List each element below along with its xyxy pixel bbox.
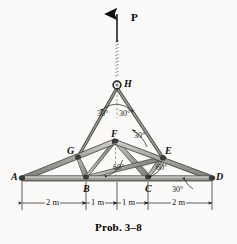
angle-label-f-right: 30° <box>134 132 145 140</box>
angle-label-h-right: 30° <box>119 110 130 118</box>
dimension-label-cd: 2 m <box>171 198 186 207</box>
angle-label-c: 60° <box>156 164 167 172</box>
joint-label-F: F <box>111 129 118 139</box>
dimension-label-ab: 2 m <box>45 198 60 207</box>
joint-label-A: A <box>11 172 18 182</box>
dimension-label-b-mid: 1 m <box>90 198 105 207</box>
angle-label-d: 30° <box>172 186 183 194</box>
joint-label-H: H <box>124 79 132 89</box>
joint-label-B: B <box>83 184 90 194</box>
load-arrow-P <box>115 14 119 78</box>
joint-label-G: G <box>67 146 74 156</box>
bottom-chord-member <box>21 176 213 181</box>
angle-label-h-left: 30° <box>97 110 108 118</box>
dimension-label-mid-c: 1 m <box>121 198 136 207</box>
load-label-P: P <box>131 12 138 23</box>
joint-label-C: C <box>145 184 152 194</box>
figure-caption: Prob. 3–8 <box>0 221 237 233</box>
joint-label-D: D <box>216 172 223 182</box>
angle-label-b: 60° <box>113 164 124 172</box>
figure-truss-diagram: P A B C D E F G H 30° 30° 30° 60° 60° 30… <box>0 0 237 244</box>
truss-drawing <box>0 0 237 244</box>
joint-label-E: E <box>165 146 172 156</box>
top-chord-members <box>21 139 213 181</box>
